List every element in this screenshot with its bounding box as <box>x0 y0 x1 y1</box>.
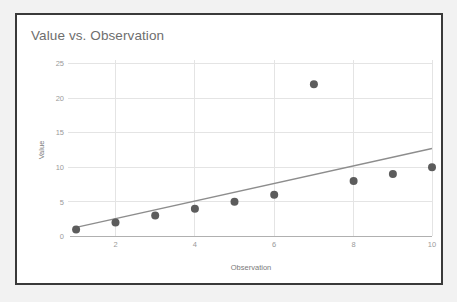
y-axis-title: Value <box>37 141 46 160</box>
ytick-label-20: 20 <box>56 94 64 103</box>
x-axis-title: Observation <box>231 263 271 272</box>
horizontal-gridlines <box>70 63 432 201</box>
data-point-10[interactable] <box>428 163 436 171</box>
xtick-label-2: 2 <box>113 240 117 249</box>
data-point-7[interactable] <box>310 80 318 88</box>
data-point-9[interactable] <box>389 170 397 178</box>
xtick-label-10: 10 <box>428 240 436 249</box>
ytick-label-10: 10 <box>56 163 64 172</box>
chart-card: Value vs. Observation <box>15 13 443 285</box>
scatter-plot: 25 20 15 10 5 0 2 4 6 8 10 <box>2 2 457 302</box>
data-point-5[interactable] <box>231 198 239 206</box>
data-point-6[interactable] <box>270 191 278 199</box>
y-tick-marks <box>68 63 74 201</box>
ytick-label-15: 15 <box>56 128 64 137</box>
xtick-label-8: 8 <box>352 240 356 249</box>
data-points <box>72 80 436 233</box>
data-point-2[interactable] <box>112 219 120 227</box>
vertical-gridlines <box>116 60 433 236</box>
ytick-label-25: 25 <box>56 59 64 68</box>
x-tick-labels: 2 4 6 8 10 <box>113 240 436 249</box>
data-point-1[interactable] <box>72 226 80 234</box>
data-point-4[interactable] <box>191 205 199 213</box>
xtick-label-4: 4 <box>193 240 197 249</box>
data-point-3[interactable] <box>151 212 159 220</box>
data-point-8[interactable] <box>350 177 358 185</box>
ytick-label-5: 5 <box>60 198 64 207</box>
trend-line <box>76 149 432 228</box>
ytick-label-0: 0 <box>60 232 64 241</box>
xtick-label-6: 6 <box>272 240 276 249</box>
y-tick-labels: 25 20 15 10 5 0 <box>56 59 64 241</box>
